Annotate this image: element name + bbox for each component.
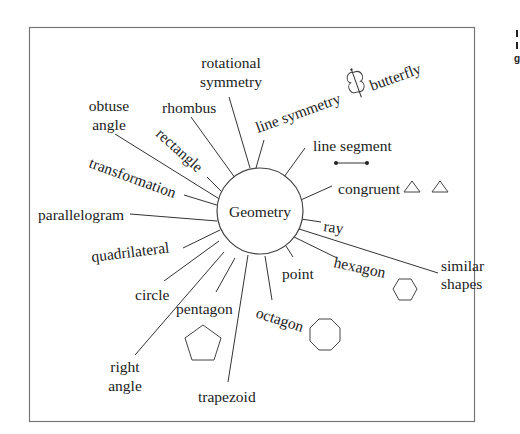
label-right-line1: right	[110, 358, 140, 375]
label-congruent: congruent	[338, 180, 401, 197]
label-obtuse-line2: angle	[92, 116, 126, 133]
label-ray: ray	[323, 217, 345, 237]
butterfly-icon	[346, 67, 366, 99]
label-similar-line2: shapes	[441, 275, 482, 292]
label-octagon: octagon	[254, 304, 306, 335]
label-hexagon: hexagon	[332, 253, 387, 281]
pentagon-icon	[185, 325, 221, 360]
label-butterfly: butterfly	[367, 60, 423, 94]
geometry-web-diagram: Geometry rotational symmetry line symmet…	[0, 0, 520, 434]
triangle-icon	[404, 181, 420, 192]
label-circle: circle	[135, 286, 170, 303]
label-right-line2: angle	[108, 377, 142, 394]
label-quadrilateral: quadrilateral	[90, 239, 170, 265]
center-label: Geometry	[229, 203, 291, 220]
label-rotational-line1: rotational	[201, 54, 260, 71]
label-rotational-line2: symmetry	[200, 73, 262, 90]
label-line-segment: line segment	[313, 137, 392, 154]
svg-text:g: g	[514, 53, 520, 64]
clipped-edge-text: g	[514, 30, 520, 64]
triangle-icon	[432, 181, 448, 192]
hexagon-icon	[393, 279, 417, 300]
label-pentagon: pentagon	[176, 300, 233, 317]
label-similar-line1: similar	[441, 257, 485, 274]
label-line-symmetry: line symmetry	[253, 89, 343, 136]
label-rectangle: rectangle	[153, 125, 207, 176]
label-point: point	[282, 265, 315, 282]
label-obtuse-line1: obtuse	[89, 97, 130, 114]
label-trapezoid: trapezoid	[198, 388, 256, 405]
label-transformation: transformation	[87, 154, 179, 201]
label-rhombus: rhombus	[162, 99, 216, 116]
label-parallelogram: parallelogram	[38, 206, 124, 223]
line-segment-icon	[334, 161, 369, 165]
octagon-icon	[310, 319, 340, 350]
